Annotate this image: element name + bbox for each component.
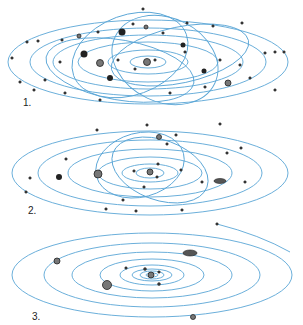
ringed-planet-icon	[183, 250, 197, 256]
panel-2-diagram	[12, 122, 288, 215]
panel-2-label: 2.	[28, 205, 36, 216]
orbital-diagram	[0, 0, 303, 325]
panel-3-diagram	[12, 223, 292, 320]
comet-icons	[81, 29, 207, 82]
ringed-planet-icon	[214, 179, 226, 184]
panel-3-label: 3.	[32, 311, 40, 322]
panel-1-label: 1.	[23, 97, 31, 108]
panel-1-diagram	[8, 0, 288, 121]
comet-icon	[56, 174, 62, 180]
